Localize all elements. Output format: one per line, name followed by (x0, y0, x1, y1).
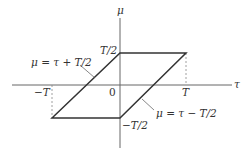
lower-line-equation: μ = τ − T/2 (156, 107, 217, 119)
tick-right-label: T (182, 86, 190, 98)
leader-lower (142, 99, 154, 110)
tick-left-label: −T (34, 86, 51, 98)
upper-line-equation: μ = τ + T/2 (31, 56, 92, 68)
tau-axis-label: τ (234, 78, 240, 90)
tick-bottom-label: −T/2 (122, 119, 148, 131)
mu-axis-label: μ (117, 4, 124, 16)
origin-label: 0 (109, 86, 116, 98)
hysteresis-diagram: μ τ 0 T/2 −T/2 −T T μ = τ + T/2 μ = τ − … (0, 0, 247, 154)
tick-top-label: T/2 (100, 44, 118, 56)
